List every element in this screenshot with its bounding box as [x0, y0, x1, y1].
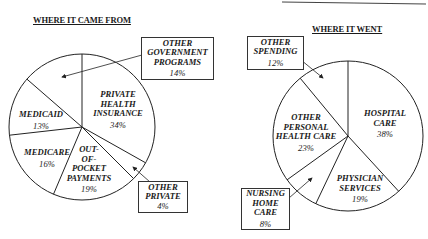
label-hospital-care: HOSPITAL CARE 38%	[364, 109, 406, 140]
box-other-spending: OTHER SPENDING 12%	[247, 36, 304, 70]
box-other-private: OTHER PRIVATE 4%	[138, 181, 188, 213]
right-chart-title: WHERE IT WENT	[312, 24, 382, 34]
label-medicare: MEDICARE 16%	[24, 148, 70, 169]
label-other-personal-health-care: OTHER PERSONAL HEALTH CARE 23%	[276, 113, 336, 153]
box-nursing-home-care: NURSING HOME CARE 8%	[241, 188, 290, 230]
top-rule-line	[282, 2, 426, 4]
box-other-government: OTHER GOVERNMENT PROGRAMS 14%	[141, 37, 214, 80]
label-out-of-pocket: OUT- OF- POCKET PAYMENTS 19%	[67, 145, 112, 195]
label-physician-services: PHYSICIAN SERVICES 19%	[337, 174, 383, 205]
left-chart-title: WHERE IT CAME FROM	[33, 15, 131, 25]
label-private-health-insurance: PRIVATE HEALTH INSURANCE 34%	[93, 90, 143, 130]
label-medicaid: MEDICAID 13%	[19, 110, 63, 131]
